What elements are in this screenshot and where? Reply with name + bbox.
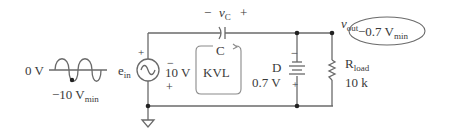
diode-value: 0.7 V bbox=[252, 75, 281, 90]
input-waveform: 0 V −10 Vmin bbox=[25, 59, 107, 104]
circuit-diagram: 0 V −10 Vmin + ein − vC + bbox=[0, 0, 475, 140]
source-plus-sign: + bbox=[138, 46, 144, 58]
capacitor: − vC + C − 10 V + bbox=[165, 5, 247, 94]
node-bottom-left bbox=[146, 104, 151, 109]
kvl-label: KVL bbox=[203, 65, 230, 80]
zero-volt-label: 0 V bbox=[25, 63, 45, 78]
node-top-diode bbox=[295, 31, 300, 36]
node-vout bbox=[330, 31, 335, 36]
vc-minus-sign: − bbox=[204, 5, 211, 20]
diode-label: D bbox=[272, 60, 281, 75]
source-label: ein bbox=[118, 63, 131, 80]
vout-label: vout bbox=[341, 16, 359, 33]
node-bottom-diode bbox=[295, 104, 300, 109]
cap-drop-value: 10 V bbox=[165, 65, 191, 80]
kvl-arrow-icon bbox=[233, 44, 237, 49]
ac-sine-glyph bbox=[141, 66, 155, 75]
ground-icon bbox=[142, 120, 154, 127]
diode: − + D 0.7 V bbox=[252, 46, 305, 90]
diode-plus-sign: + bbox=[292, 78, 298, 90]
result-callout: −0.7 Vmin bbox=[349, 17, 425, 45]
rload-value: 10 k bbox=[345, 75, 368, 90]
vc-plus-sign: + bbox=[240, 5, 247, 20]
rload-label: Rload bbox=[345, 56, 370, 73]
diode-minus-sign: − bbox=[291, 46, 298, 60]
result-value: −0.7 Vmin bbox=[358, 24, 409, 41]
cap-drop-plus: + bbox=[166, 80, 173, 94]
ac-source: + ein bbox=[118, 46, 159, 81]
capacitor-label: C bbox=[216, 43, 225, 58]
vc-label: vC bbox=[219, 5, 231, 22]
min-voltage-label: −10 Vmin bbox=[52, 87, 99, 104]
load-resistor: Rload 10 k bbox=[329, 56, 370, 90]
resistor-zigzag-icon bbox=[329, 60, 335, 80]
waveform-min-dot bbox=[70, 78, 74, 82]
